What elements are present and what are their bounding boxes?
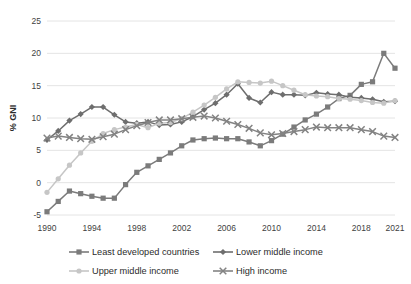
marker-square bbox=[44, 209, 49, 214]
marker-square bbox=[224, 136, 229, 141]
marker-square bbox=[190, 137, 195, 142]
marker-circle bbox=[67, 163, 72, 168]
marker-square bbox=[246, 139, 251, 144]
x-tick-label: 2014 bbox=[307, 223, 326, 233]
marker-circle bbox=[56, 176, 61, 181]
series-0 bbox=[44, 51, 397, 215]
marker-square bbox=[314, 112, 319, 117]
marker-square bbox=[76, 249, 81, 254]
marker-circle bbox=[359, 98, 364, 103]
x-tick-label: 1994 bbox=[82, 223, 101, 233]
chart-canvas: -505101520251990199419982002200620102014… bbox=[0, 0, 411, 284]
marker-x bbox=[246, 125, 253, 132]
legend-item-3[interactable]: High income bbox=[213, 266, 287, 276]
y-axis-title: % GNI bbox=[8, 105, 18, 132]
series-1 bbox=[44, 81, 398, 143]
x-tick-label: 2018 bbox=[352, 223, 371, 233]
y-tick-label: 25 bbox=[32, 16, 42, 26]
marker-square bbox=[134, 170, 139, 175]
marker-square bbox=[269, 138, 274, 143]
marker-square bbox=[179, 143, 184, 148]
marker-square bbox=[89, 194, 94, 199]
marker-square bbox=[303, 117, 308, 122]
marker-circle bbox=[280, 83, 285, 88]
marker-square bbox=[381, 51, 386, 56]
marker-square bbox=[123, 182, 128, 187]
marker-circle bbox=[336, 96, 341, 101]
marker-circle bbox=[370, 100, 375, 105]
y-tick-label: 5 bbox=[36, 145, 41, 155]
x-tick-label: 2010 bbox=[262, 223, 281, 233]
marker-square bbox=[258, 143, 263, 148]
legend-label: Upper middle income bbox=[92, 266, 179, 276]
marker-circle bbox=[202, 102, 207, 107]
marker-square bbox=[112, 196, 117, 201]
marker-circle bbox=[258, 80, 263, 85]
line-chart: -505101520251990199419982002200620102014… bbox=[0, 0, 411, 284]
marker-square bbox=[213, 135, 218, 140]
legend-item-0[interactable]: Least developed countries bbox=[69, 247, 200, 257]
legend-item-2[interactable]: Upper middle income bbox=[69, 266, 179, 276]
marker-circle bbox=[246, 80, 251, 85]
marker-square bbox=[78, 191, 83, 196]
y-tick-label: 0 bbox=[36, 178, 41, 188]
marker-circle bbox=[235, 79, 240, 84]
y-tick-label: 15 bbox=[32, 81, 42, 91]
y-tick-label: -5 bbox=[33, 210, 41, 220]
x-tick-label: 2021 bbox=[386, 223, 405, 233]
marker-circle bbox=[325, 94, 330, 99]
marker-square bbox=[56, 199, 61, 204]
legend-item-1[interactable]: Lower middle income bbox=[213, 247, 323, 257]
marker-square bbox=[67, 188, 72, 193]
y-tick-label: 20 bbox=[32, 48, 42, 58]
marker-circle bbox=[76, 268, 81, 273]
marker-circle bbox=[190, 110, 195, 115]
marker-square bbox=[325, 104, 330, 109]
marker-square bbox=[101, 196, 106, 201]
marker-circle bbox=[303, 92, 308, 97]
x-tick-label: 2006 bbox=[217, 223, 236, 233]
marker-circle bbox=[213, 95, 218, 100]
marker-square bbox=[202, 136, 207, 141]
marker-circle bbox=[314, 93, 319, 98]
marker-circle bbox=[392, 98, 397, 103]
marker-circle bbox=[78, 150, 83, 155]
x-tick-label: 1990 bbox=[38, 223, 57, 233]
marker-circle bbox=[145, 125, 150, 130]
marker-square bbox=[157, 157, 162, 162]
marker-square bbox=[392, 66, 397, 71]
x-tick-label: 2002 bbox=[172, 223, 191, 233]
legend-label: Least developed countries bbox=[92, 247, 200, 257]
marker-circle bbox=[347, 97, 352, 102]
marker-square bbox=[168, 150, 173, 155]
marker-circle bbox=[291, 88, 296, 93]
marker-square bbox=[370, 79, 375, 84]
marker-square bbox=[235, 136, 240, 141]
marker-square bbox=[145, 163, 150, 168]
marker-diamond bbox=[220, 249, 226, 255]
series-line-0 bbox=[47, 53, 395, 211]
x-tick-label: 1998 bbox=[127, 223, 146, 233]
marker-diamond bbox=[280, 92, 286, 98]
legend-label: High income bbox=[236, 266, 287, 276]
marker-circle bbox=[269, 79, 274, 84]
marker-square bbox=[359, 82, 364, 87]
marker-circle bbox=[224, 86, 229, 91]
marker-circle bbox=[381, 101, 386, 106]
legend-label: Lower middle income bbox=[236, 247, 323, 257]
marker-circle bbox=[44, 190, 49, 195]
y-tick-label: 10 bbox=[32, 113, 42, 123]
